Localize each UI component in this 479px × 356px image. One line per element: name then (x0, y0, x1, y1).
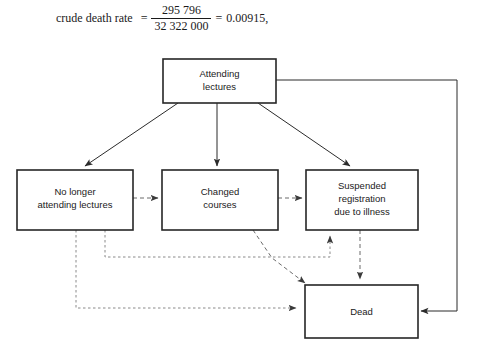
edge-attending-to-suspended (258, 103, 350, 166)
node-suspended-registration[interactable]: Suspended registration due to illness (306, 170, 418, 230)
formula-denominator: 32 322 000 (151, 20, 211, 33)
transition-diagram: Attending lectures No longer attending l… (0, 46, 479, 356)
node-no-longer-attending[interactable]: No longer attending lectures (17, 170, 133, 230)
formula-equals-second: = (215, 11, 222, 26)
node-changed-courses-label-line1: Changed (201, 186, 240, 197)
node-suspended-registration-label-line3: due to illness (334, 206, 390, 217)
node-suspended-registration-label-line2: registration (339, 193, 386, 204)
edge-no-longer-to-dead (76, 230, 296, 308)
node-attending-lectures[interactable]: Attending lectures (163, 59, 276, 103)
node-dead-label: Dead (350, 306, 373, 317)
node-attending-lectures-label-line2: lectures (203, 81, 237, 92)
node-changed-courses[interactable]: Changed courses (162, 170, 278, 230)
formula-numerator: 295 796 (159, 4, 204, 17)
formula-label: crude death rate (56, 11, 133, 26)
node-no-longer-attending-label-line1: No longer (54, 186, 95, 197)
node-no-longer-attending-label-line2: attending lectures (38, 199, 113, 210)
edge-no-longer-to-suspended (105, 230, 330, 257)
node-changed-courses-label-line2: courses (203, 199, 237, 210)
node-attending-lectures-label-line1: Attending (199, 68, 239, 79)
formula-fraction: 295 796 32 322 000 (151, 4, 211, 33)
edge-attending-to-no-longer (85, 103, 178, 166)
node-dead[interactable]: Dead (305, 285, 418, 338)
node-suspended-registration-label-line1: Suspended (338, 180, 386, 191)
formula-equals-first: = (141, 11, 148, 26)
formula-result: 0.00915, (226, 11, 268, 26)
crude-death-rate-formula: crude death rate = 295 796 32 322 000 = … (56, 4, 268, 33)
page-root: crude death rate = 295 796 32 322 000 = … (0, 0, 479, 356)
